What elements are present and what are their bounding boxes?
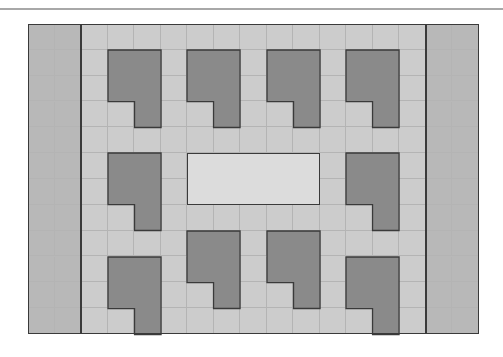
grid-cell: [55, 153, 82, 179]
grid-cell: [399, 282, 426, 308]
grid-cell: [320, 282, 347, 308]
grid-cell: [134, 231, 161, 257]
grid-cell: [28, 257, 55, 283]
grid-cell: [399, 102, 426, 128]
grid-cell: [161, 231, 188, 257]
grid-cell: [240, 24, 267, 50]
grid-cell: [320, 257, 347, 283]
grid-cell: [373, 24, 400, 50]
grid-cell: [81, 282, 108, 308]
grid-cell: [293, 127, 320, 153]
grid-cell: [399, 205, 426, 231]
grid-cell: [320, 127, 347, 153]
grid-cell: [426, 282, 453, 308]
grid-cell: [399, 24, 426, 50]
grid-cell: [214, 127, 241, 153]
grid-cell: [81, 102, 108, 128]
grid-cell: [161, 127, 188, 153]
grid-cell: [426, 205, 453, 231]
block-bottom-1[interactable]: [108, 257, 161, 335]
grid-cell: [346, 127, 373, 153]
grid-cell: [452, 179, 479, 205]
grid-cell: [399, 308, 426, 334]
grid-cell: [399, 127, 426, 153]
grid-cell: [81, 24, 108, 50]
grid-cell: [452, 231, 479, 257]
grid-cell: [55, 102, 82, 128]
grid-cell: [108, 127, 135, 153]
center-area[interactable]: [187, 153, 320, 205]
block-mid-right[interactable]: [346, 153, 399, 231]
top-rule-divider: [0, 8, 503, 10]
block-top-1[interactable]: [108, 50, 161, 128]
block-top-2[interactable]: [187, 50, 240, 128]
grid-cell: [81, 257, 108, 283]
grid-cell: [320, 308, 347, 334]
block-bottom-3[interactable]: [267, 231, 320, 309]
grid-cell: [161, 76, 188, 102]
divider-line: [425, 24, 427, 334]
block-bottom-2[interactable]: [187, 231, 240, 309]
grid-cell: [452, 76, 479, 102]
grid-cell: [81, 205, 108, 231]
grid-cell: [452, 282, 479, 308]
grid-cell: [161, 102, 188, 128]
grid-cell: [81, 127, 108, 153]
grid-cell: [28, 282, 55, 308]
grid-cell: [81, 76, 108, 102]
grid-cell: [452, 102, 479, 128]
grid-cell: [267, 24, 294, 50]
block-top-3[interactable]: [267, 50, 320, 128]
grid-cell: [399, 231, 426, 257]
grid-cell: [426, 102, 453, 128]
grid-cell: [81, 153, 108, 179]
grid-cell: [293, 308, 320, 334]
grid-cell: [55, 76, 82, 102]
grid-cell: [293, 205, 320, 231]
grid-cell: [55, 231, 82, 257]
grid-cell: [373, 127, 400, 153]
grid-cell: [161, 179, 188, 205]
block-mid-left[interactable]: [108, 153, 161, 231]
grid-cell: [452, 127, 479, 153]
divider-line: [80, 24, 82, 334]
grid-cell: [399, 179, 426, 205]
grid-cell: [426, 179, 453, 205]
grid-cell: [55, 24, 82, 50]
grid-cell: [320, 179, 347, 205]
grid-cell: [214, 24, 241, 50]
grid-cell: [240, 308, 267, 334]
grid-cell: [240, 50, 267, 76]
grid-cell: [240, 257, 267, 283]
grid-cell: [161, 282, 188, 308]
grid-cell: [28, 24, 55, 50]
grid-cell: [320, 50, 347, 76]
grid-cell: [346, 24, 373, 50]
grid-cell: [320, 76, 347, 102]
block-top-4[interactable]: [346, 50, 399, 128]
grid-cell: [134, 127, 161, 153]
grid-cell: [240, 127, 267, 153]
grid-cell: [399, 50, 426, 76]
block-bottom-4[interactable]: [346, 257, 399, 335]
grid-cell: [81, 50, 108, 76]
grid-cell: [55, 205, 82, 231]
grid-cell: [452, 257, 479, 283]
grid-cell: [108, 24, 135, 50]
grid-cell: [426, 231, 453, 257]
grid-cell: [399, 153, 426, 179]
grid-cell: [240, 205, 267, 231]
grid-cell: [346, 231, 373, 257]
grid-cell: [187, 205, 214, 231]
grid-cell: [320, 153, 347, 179]
grid-cell: [55, 50, 82, 76]
grid-cell: [240, 282, 267, 308]
grid-cell: [161, 308, 188, 334]
grid-cell: [320, 24, 347, 50]
grid-cell: [399, 76, 426, 102]
grid-cell: [28, 76, 55, 102]
grid-cell: [267, 127, 294, 153]
grid-cell: [373, 231, 400, 257]
grid-cell: [214, 205, 241, 231]
grid-cell: [28, 127, 55, 153]
